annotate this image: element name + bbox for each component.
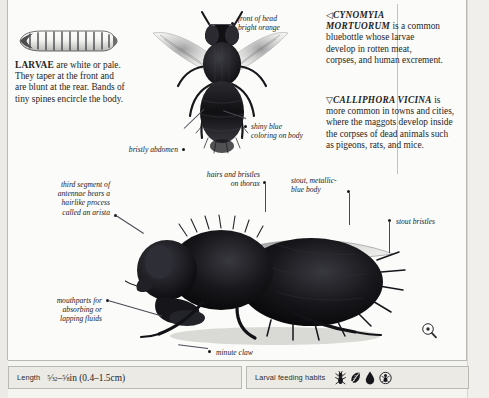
page-outer-rule	[467, 0, 468, 398]
leader-stout-body	[349, 193, 350, 225]
magnifier-scale-icon	[420, 322, 438, 340]
species-block-cynomyia: ◁CYNOMYIA MORTUORUM is a common bluebott…	[326, 10, 444, 66]
callout-dot-shiny-blue	[244, 125, 247, 128]
length-max-numerator: 5	[62, 373, 65, 379]
larva-caption: LARVAE are white or pale. They taper at …	[15, 60, 125, 105]
field-guide-page: LARVAE are white or pale. They taper at …	[0, 0, 489, 398]
circled-carrion-icon	[379, 371, 392, 385]
page-right-margin	[468, 0, 489, 398]
length-units: in (0.4–1.5cm)	[70, 373, 125, 383]
larva-illustration	[14, 28, 118, 54]
larva-caption-lead: LARVAE	[15, 60, 54, 70]
leader-front-of-head	[208, 24, 231, 25]
callout-arista: third segment of antennae bears a hairli…	[18, 180, 110, 217]
blood-droplet-icon	[365, 371, 375, 385]
insect-prey-icon	[335, 371, 346, 385]
callout-shiny-blue: shiny blue coloring on body	[251, 122, 331, 140]
larval-feeding-habits-panel: Larval feeding habits	[246, 366, 469, 389]
habit-icon-group	[325, 371, 392, 385]
callout-front-of-head: front of head bright orange	[238, 14, 324, 32]
larval-feeding-habits-label: Larval feeding habits	[247, 373, 325, 382]
callout-stout-bristles: stout bristles	[396, 217, 458, 226]
length-value: 5⁄32–5⁄8in (0.4–1.5cm)	[40, 373, 125, 383]
leaf-icon	[350, 371, 361, 385]
lateral-fly-photo	[125, 198, 415, 358]
length-min-numerator: 5	[47, 373, 50, 379]
calliphora-marker: ▽	[326, 95, 333, 105]
length-panel: Length 5⁄32–5⁄8in (0.4–1.5cm)	[8, 366, 242, 389]
callout-bristly-abdomen: bristly abdomen	[104, 145, 178, 154]
callout-minute-claw: minute claw	[216, 348, 276, 357]
cynomyia-marker: ◁	[326, 10, 333, 20]
callout-dot-minute-claw	[208, 350, 211, 353]
page-left-rule	[7, 0, 8, 360]
calliphora-name: CALLIPHORA VICINA	[333, 95, 432, 105]
footer-divider	[8, 360, 467, 361]
cynomyia-name: CYNOMYIA MORTUORUM	[326, 10, 390, 31]
leader-hairs-bristles	[265, 184, 266, 212]
species-block-calliphora: ▽CALLIPHORA VICINA is more common in tow…	[326, 95, 458, 151]
callout-mouthparts: mouthparts for absorbing or lapping flui…	[14, 296, 102, 324]
callout-dot-bristly-abdomen	[182, 148, 185, 151]
callout-hairs-bristles: hairs and bristles on thorax	[188, 170, 260, 188]
callout-stout-body: stout, metallic- blue body	[291, 176, 361, 194]
leader-stout-bristles	[389, 221, 390, 253]
length-label: Length	[9, 373, 40, 382]
callout-dot-front-of-head	[231, 22, 234, 25]
